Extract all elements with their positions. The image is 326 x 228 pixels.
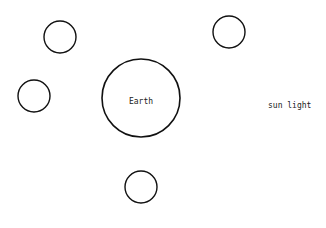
diagram-canvas: Earth sun light [0,0,326,228]
sunlight-label: sun light [268,101,312,110]
satellite-circle-3 [18,80,50,112]
satellite-circle-1 [44,21,76,53]
satellite-circle-4 [125,171,157,203]
satellite-circle-2 [213,16,245,48]
earth-label: Earth [129,97,153,106]
